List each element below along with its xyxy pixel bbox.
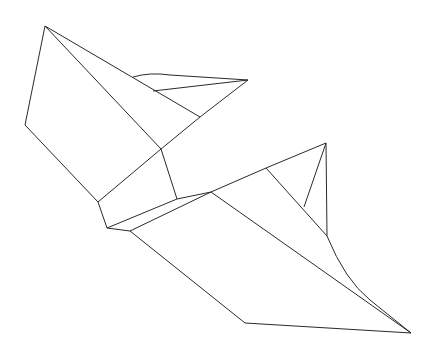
drawing-curve [133,74,248,80]
drawing-line [45,26,161,149]
drawing-line [45,26,200,117]
drawing-line [25,26,45,125]
drawing-line [130,231,245,323]
drawing-line [107,228,130,231]
drawing-line [161,117,200,149]
drawing-line [98,202,107,228]
drawing-line [211,192,411,333]
drawing-line [304,143,326,207]
drawing-line [177,192,211,199]
drawing-line [211,168,266,192]
drawing-line [161,149,177,199]
drawing-line [25,125,98,202]
line-drawing [0,0,434,357]
drawing-curve [327,236,411,333]
drawing-line [130,192,211,231]
drawing-line [153,80,248,91]
drawing-line [200,80,248,117]
drawing-line [326,143,327,236]
drawing-line [245,323,411,333]
drawing-line [98,149,161,202]
drawing-line [266,168,327,236]
drawing-line [266,143,326,168]
drawing-segments [25,26,411,333]
